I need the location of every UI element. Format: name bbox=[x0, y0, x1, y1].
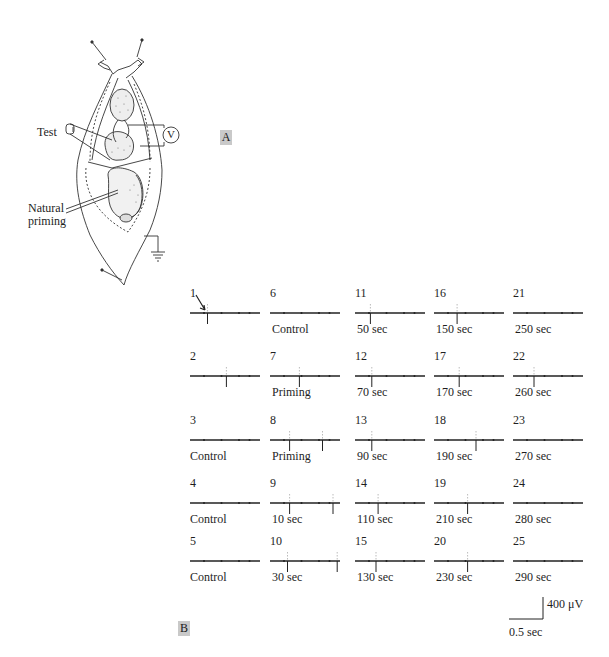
trace-condition-label: 260 sec bbox=[515, 386, 551, 399]
trace-number: 24 bbox=[513, 477, 525, 490]
trace-condition-label: 290 sec bbox=[515, 571, 551, 584]
trace-number: 6 bbox=[270, 287, 276, 300]
trace-number: 10 bbox=[270, 535, 282, 548]
trace-condition-label: 110 sec bbox=[357, 513, 393, 526]
trace-condition-label: 30 sec bbox=[272, 571, 302, 584]
scale-bar-lines bbox=[505, 594, 547, 622]
trace-number: 15 bbox=[355, 535, 367, 548]
trace-number: 12 bbox=[355, 350, 367, 363]
panel-a-diagram: Test V Natural priming bbox=[0, 0, 240, 290]
trace-number: 1 bbox=[190, 287, 196, 300]
test-electrode-label: Test bbox=[37, 126, 57, 139]
trace-condition-label: 250 sec bbox=[515, 323, 551, 336]
trace-condition-label: 190 sec bbox=[436, 450, 472, 463]
trace-condition-label: 150 sec bbox=[436, 323, 472, 336]
trace-number: 25 bbox=[513, 535, 525, 548]
trace-condition-label: Control bbox=[272, 323, 309, 336]
trace-condition-label: 10 sec bbox=[272, 513, 302, 526]
trace-condition-label: 130 sec bbox=[357, 571, 393, 584]
trace-number: 2 bbox=[190, 350, 196, 363]
trace-condition-label: 280 sec bbox=[515, 513, 551, 526]
trace-number: 5 bbox=[190, 535, 196, 548]
panel-b-label: B bbox=[178, 621, 190, 636]
trace-condition-label: Priming bbox=[272, 386, 311, 399]
dissected-animal-illustration bbox=[0, 0, 240, 290]
trace-number: 17 bbox=[434, 350, 446, 363]
trace-number: 19 bbox=[434, 477, 446, 490]
trace-number: 4 bbox=[190, 477, 196, 490]
trace-number: 18 bbox=[434, 414, 446, 427]
trace-number: 3 bbox=[190, 414, 196, 427]
trace-condition-label: 50 sec bbox=[357, 323, 387, 336]
trace-number: 20 bbox=[434, 535, 446, 548]
trace-number: 22 bbox=[513, 350, 525, 363]
recording-trace bbox=[190, 366, 260, 396]
stimulus-arrow-icon bbox=[196, 295, 205, 310]
trace-number: 13 bbox=[355, 414, 367, 427]
scale-bar-time: 0.5 sec bbox=[509, 626, 542, 639]
trace-condition-label: Control bbox=[190, 450, 227, 463]
trace-condition-label: 170 sec bbox=[436, 386, 472, 399]
panel-a-label: A bbox=[220, 130, 232, 145]
trace-condition-label: 270 sec bbox=[515, 450, 551, 463]
trace-condition-label: Control bbox=[190, 571, 227, 584]
trace-condition-label: 210 sec bbox=[436, 513, 472, 526]
trace-condition-label: 90 sec bbox=[357, 450, 387, 463]
trace-condition-label: 70 sec bbox=[357, 386, 387, 399]
trace-number: 11 bbox=[355, 287, 367, 300]
scale-bar-voltage: 400 μV bbox=[547, 598, 583, 611]
trace-number: 23 bbox=[513, 414, 525, 427]
trace-number: 9 bbox=[270, 477, 276, 490]
trace-condition-label: 230 sec bbox=[436, 571, 472, 584]
trace-number: 7 bbox=[270, 350, 276, 363]
trace-condition-label: Control bbox=[190, 513, 227, 526]
natural-priming-label-line2: priming bbox=[28, 215, 66, 228]
voltmeter-label: V bbox=[167, 128, 175, 141]
recording-trace bbox=[190, 303, 260, 333]
trace-condition-label: Priming bbox=[272, 450, 311, 463]
trace-number: 8 bbox=[270, 414, 276, 427]
trace-number: 16 bbox=[434, 287, 446, 300]
trace-number: 21 bbox=[513, 287, 525, 300]
trace-number: 14 bbox=[355, 477, 367, 490]
